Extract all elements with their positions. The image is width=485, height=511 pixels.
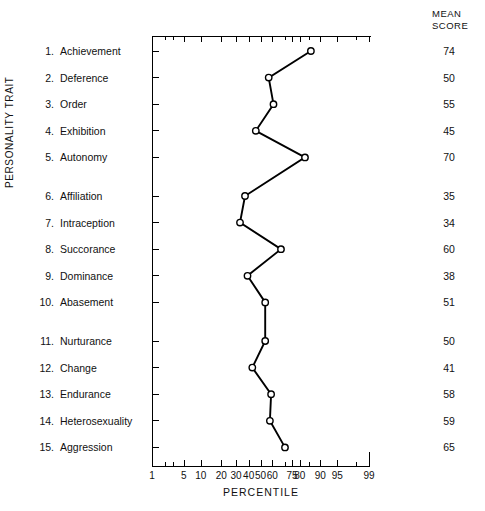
data-point-marker	[270, 101, 276, 107]
profile-line	[240, 51, 311, 447]
percentile-profile-chart: PERSONALITY TRAIT 1.Achievement2.Deferen…	[0, 0, 485, 511]
data-point-marker	[253, 128, 259, 134]
data-point-marker	[242, 193, 248, 199]
data-point-marker	[278, 246, 284, 252]
data-point-marker	[237, 219, 243, 225]
data-point-marker	[266, 74, 272, 80]
data-point-marker	[262, 299, 268, 305]
data-point-marker	[262, 338, 268, 344]
data-point-marker	[268, 391, 274, 397]
data-series	[0, 0, 485, 511]
data-point-marker	[267, 418, 273, 424]
data-point-marker	[244, 273, 250, 279]
data-point-marker	[249, 364, 255, 370]
data-point-marker	[282, 444, 288, 450]
data-point-marker	[302, 154, 308, 160]
data-point-marker	[308, 48, 314, 54]
